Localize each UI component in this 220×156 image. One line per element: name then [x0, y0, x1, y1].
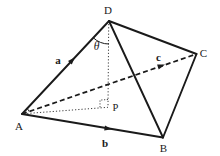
vector-label-b: b	[102, 137, 108, 149]
diagonal-ac-dashed	[22, 54, 197, 114]
diagram-ink: D C B A P a b c θ	[15, 4, 207, 154]
geometry-figure: D C B A P a b c θ	[0, 0, 220, 156]
vertex-label-a: A	[15, 120, 23, 132]
angle-theta-label: θ	[94, 40, 100, 52]
vertex-a-angle-arc	[27, 109, 29, 112]
vertex-label-d: D	[104, 4, 112, 16]
vertex-label-c: C	[200, 47, 207, 59]
segment-ap-dotted	[24, 107, 108, 113]
vector-label-c: c	[156, 51, 161, 63]
vertex-label-b: B	[160, 142, 167, 154]
edge-ab	[22, 114, 163, 138]
vector-label-a: a	[55, 54, 61, 66]
vector-c-arrowhead	[157, 65, 165, 70]
figure-canvas: D C B A P a b c θ	[0, 0, 220, 156]
altitude-dp-dotted	[108, 24, 109, 107]
edge-ad	[22, 21, 109, 114]
point-label-p: P	[113, 102, 119, 113]
edge-cb	[163, 54, 197, 138]
right-angle-marker	[100, 100, 108, 109]
